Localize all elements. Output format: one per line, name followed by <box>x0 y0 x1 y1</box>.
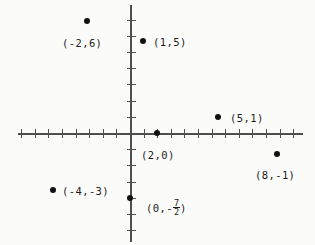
x-axis-tick <box>103 129 104 138</box>
x-axis-tick <box>48 129 49 138</box>
x-axis-tick <box>62 129 63 138</box>
data-point <box>140 38 146 44</box>
y-axis-tick <box>127 20 136 21</box>
x-axis-tick <box>198 129 199 138</box>
point-label: (0,-72) <box>146 200 187 217</box>
point-label: (1,5) <box>153 37 187 48</box>
y-axis-tick <box>127 182 136 183</box>
y-axis-tick <box>127 165 136 166</box>
data-point <box>215 114 221 120</box>
y-axis-tick <box>127 214 136 215</box>
data-point <box>274 151 280 157</box>
y-axis-tick <box>127 84 136 85</box>
x-axis-tick <box>184 129 185 138</box>
x-axis-tick <box>225 129 226 138</box>
x-axis-tick <box>212 129 213 138</box>
coordinate-plane-figure: (-2,6)(1,5)(5,1)(2,0)(8,-1)(-4,-3)(0,-72… <box>0 0 315 245</box>
data-point <box>84 18 90 24</box>
x-axis-tick <box>35 129 36 138</box>
point-label: (5,1) <box>230 113 264 124</box>
y-axis-tick <box>127 68 136 69</box>
point-label: (8,-1) <box>255 170 295 181</box>
x-axis-tick <box>252 129 253 138</box>
data-point <box>50 187 56 193</box>
y-axis-tick <box>127 52 136 53</box>
y-axis-tick <box>127 117 136 118</box>
x-axis <box>18 133 303 135</box>
data-point <box>127 195 133 201</box>
x-axis-tick <box>239 129 240 138</box>
y-axis-tick <box>127 149 136 150</box>
x-axis-tick <box>116 129 117 138</box>
y-axis <box>130 5 132 242</box>
point-label: (-4,-3) <box>62 186 109 197</box>
x-axis-tick <box>89 129 90 138</box>
point-label: (-2,6) <box>62 38 102 49</box>
y-axis-tick <box>127 36 136 37</box>
x-axis-tick <box>144 129 145 138</box>
x-axis-tick <box>76 129 77 138</box>
data-point <box>154 130 160 136</box>
x-axis-tick <box>21 129 22 138</box>
y-axis-tick <box>127 101 136 102</box>
x-axis-tick <box>266 129 267 138</box>
x-axis-tick <box>293 129 294 138</box>
x-axis-tick <box>171 129 172 138</box>
point-label: (2,0) <box>141 150 175 161</box>
y-axis-tick <box>127 230 136 231</box>
x-axis-tick <box>280 129 281 138</box>
